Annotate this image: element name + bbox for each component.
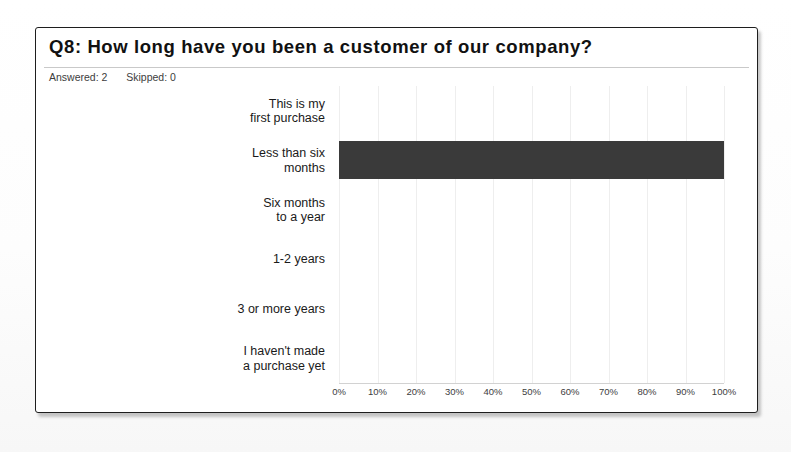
gridline [378, 86, 379, 383]
category-label-line: 3 or more years [95, 302, 325, 317]
x-axis-tick-label: 100% [712, 386, 736, 397]
category-label: 3 or more years [95, 302, 325, 317]
gridline [724, 86, 725, 383]
gridline [686, 86, 687, 383]
category-label: Less than sixmonths [95, 146, 325, 175]
x-axis-tick-label: 90% [676, 386, 695, 397]
category-label-line: Six months [95, 195, 325, 210]
gridline [416, 86, 417, 383]
category-label-line: I haven't made [95, 344, 325, 359]
x-axis-tick-label: 80% [637, 386, 656, 397]
x-axis-line [339, 383, 724, 384]
gridline [609, 86, 610, 383]
gridline [647, 86, 648, 383]
x-axis-ticks: 0%10%20%30%40%50%60%70%80%90%100% [339, 386, 724, 406]
x-axis-tick-label: 50% [522, 386, 541, 397]
gridline [339, 86, 340, 383]
bar-chart: This is myfirst purchaseLess than sixmon… [36, 86, 759, 412]
category-label-column: This is myfirst purchaseLess than sixmon… [36, 86, 333, 383]
answered-count: Answered: 2 [49, 71, 107, 83]
x-axis-tick-label: 20% [406, 386, 425, 397]
x-axis-tick-label: 70% [599, 386, 618, 397]
category-label-line: a purchase yet [95, 358, 325, 373]
category-label: Six monthsto a year [95, 195, 325, 224]
category-label: 1-2 years [95, 252, 325, 267]
x-axis-tick-label: 40% [483, 386, 502, 397]
category-label-line: 1-2 years [95, 252, 325, 267]
category-label-line: first purchase [95, 111, 325, 126]
gridline [570, 86, 571, 383]
bar [339, 141, 724, 179]
category-label: I haven't madea purchase yet [95, 344, 325, 373]
category-label-line: months [95, 160, 325, 175]
title-divider [44, 67, 749, 68]
x-axis-tick-label: 30% [445, 386, 464, 397]
category-label-line: This is my [95, 96, 325, 111]
page-title: Q8: How long have you been a customer of… [49, 36, 593, 58]
gridline [532, 86, 533, 383]
x-axis-tick-label: 60% [560, 386, 579, 397]
category-label-line: to a year [95, 210, 325, 225]
response-summary: Answered: 2 Skipped: 0 [49, 71, 176, 83]
x-axis-tick-label: 10% [368, 386, 387, 397]
skipped-count: Skipped: 0 [126, 71, 176, 83]
gridline [493, 86, 494, 383]
category-label: This is myfirst purchase [95, 96, 325, 125]
plot-area [339, 86, 724, 383]
gridline [455, 86, 456, 383]
survey-question-card: Q8: How long have you been a customer of… [35, 27, 758, 413]
x-axis-tick-label: 0% [332, 386, 346, 397]
category-label-line: Less than six [95, 146, 325, 161]
